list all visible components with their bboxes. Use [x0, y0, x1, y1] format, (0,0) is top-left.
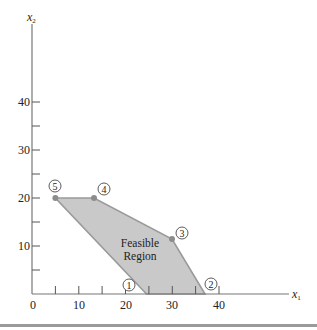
bottom-divider	[0, 324, 317, 327]
y-tick-label-30: 30	[18, 143, 30, 157]
x-tick-label-30: 30	[166, 298, 178, 312]
x-tick-label-40: 40	[213, 298, 225, 312]
svg-text:5: 5	[53, 181, 58, 192]
vertex-point-4	[91, 195, 97, 201]
svg-text:4: 4	[102, 184, 107, 195]
y-tick-label-10: 10	[18, 239, 30, 253]
svg-text:3: 3	[180, 228, 185, 239]
y-tick-label-20: 20	[18, 191, 30, 205]
y-tick-label-40: 40	[18, 95, 30, 109]
vertex-marker-2: 2	[205, 278, 217, 290]
vertex-point-5	[52, 195, 58, 201]
vertex-marker-1: 1	[123, 279, 135, 291]
x-tick-label-10: 10	[73, 298, 85, 312]
region-label-line2: Region	[123, 250, 156, 263]
y-ticks	[32, 102, 40, 270]
vertex-point-3	[169, 236, 175, 242]
svg-text:2: 2	[209, 279, 214, 290]
vertex-marker-3: 3	[176, 227, 188, 239]
svg-text:1: 1	[127, 280, 132, 291]
x-tick-label-20: 20	[120, 298, 132, 312]
y-axis-label: x2	[26, 10, 36, 25]
chart-canvas: 10 20 30 40 0 10 20 30 40 x2 x1 Feasible…	[0, 0, 317, 330]
x-axis-label: x1	[291, 287, 301, 302]
region-label-line1: Feasible	[121, 237, 159, 249]
vertex-marker-5: 5	[49, 180, 61, 192]
x-tick-label-0: 0	[30, 298, 36, 312]
vertex-marker-4: 4	[98, 183, 110, 195]
